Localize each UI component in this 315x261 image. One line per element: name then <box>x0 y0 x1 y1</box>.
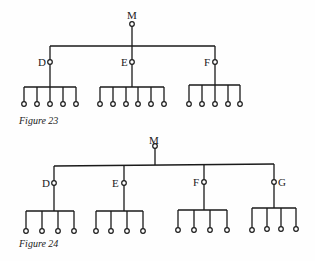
leaf-node <box>213 102 218 107</box>
node-label-f: F <box>204 56 210 68</box>
leaf-node <box>200 102 205 107</box>
leaf-node <box>208 228 213 233</box>
leaf-node <box>294 227 299 232</box>
root-node-m <box>130 22 135 27</box>
leaf-group-e <box>94 211 146 233</box>
leaf-node <box>136 102 141 107</box>
root-label-m: M <box>127 9 137 21</box>
leaf-node <box>111 102 116 107</box>
leaf-node <box>109 229 114 234</box>
leaf-node <box>24 229 29 234</box>
leaf-node <box>35 102 40 107</box>
node-f <box>202 180 207 185</box>
node-g <box>272 180 277 185</box>
figure-24: M D E F <box>18 134 298 249</box>
leaf-node <box>125 229 130 234</box>
node-label-f: F <box>193 176 199 188</box>
leaf-node <box>187 102 192 107</box>
leaf-node <box>225 228 230 233</box>
tree-diagrams: M D E F <box>0 0 315 261</box>
node-label-d: D <box>38 56 46 68</box>
diagram-canvas: M D E F <box>0 0 315 261</box>
leaf-node <box>98 102 103 107</box>
branch-bar <box>54 164 274 166</box>
node-e <box>130 60 135 65</box>
root-node-m <box>153 144 158 149</box>
node-label-d: D <box>42 177 50 189</box>
leaf-node <box>56 229 61 234</box>
node-d <box>52 181 57 186</box>
leaf-group-f <box>176 210 230 232</box>
figure-23: M D E F <box>18 9 242 126</box>
node-e <box>122 181 127 186</box>
leaf-node <box>250 228 255 233</box>
leaf-node <box>279 227 284 232</box>
node-f <box>213 60 218 65</box>
leaf-group-d <box>22 87 79 106</box>
node-label-g: G <box>278 176 286 188</box>
leaf-node <box>40 229 45 234</box>
leaf-node <box>22 102 27 107</box>
leaf-group-f <box>187 85 243 106</box>
leaf-node <box>61 102 66 107</box>
caption-figure-23: Figure 23 <box>18 115 58 126</box>
leaf-node <box>74 102 79 107</box>
leaf-node <box>149 102 154 107</box>
leaf-node <box>48 102 53 107</box>
leaf-node <box>176 228 181 233</box>
leaf-group-e <box>98 87 167 106</box>
leaf-node <box>238 102 243 107</box>
node-label-e: E <box>112 177 119 189</box>
node-d <box>48 60 53 65</box>
node-label-e: E <box>121 56 128 68</box>
leaf-node <box>162 102 167 107</box>
leaf-group-d <box>24 211 77 233</box>
caption-figure-24: Figure 24 <box>18 238 58 249</box>
leaf-node <box>141 229 146 234</box>
leaf-node <box>226 102 231 107</box>
leaf-node <box>124 102 129 107</box>
leaf-node <box>72 229 77 234</box>
leaf-node <box>192 228 197 233</box>
leaf-node <box>94 229 99 234</box>
leaf-node <box>265 227 270 232</box>
leaf-group-g <box>250 208 299 232</box>
